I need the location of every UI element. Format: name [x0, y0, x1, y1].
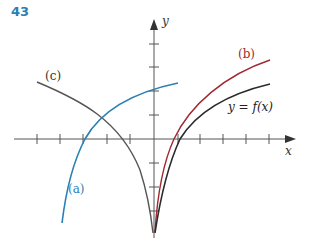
curve-a-label: (a): [68, 182, 85, 196]
curve-f-label: y = f(x): [227, 100, 273, 114]
x-axis-arrow-icon: [285, 135, 296, 143]
curve-c: [37, 82, 153, 233]
x-axis-label: x: [285, 144, 292, 158]
y-axis-arrow-icon: [150, 19, 158, 30]
graph: x y (c) (a) (b) y = f(x): [0, 0, 309, 241]
y-axis-label: y: [161, 14, 169, 28]
curve-c-label: (c): [45, 69, 61, 83]
x-axis: [14, 134, 296, 144]
curve-b-label: (b): [238, 47, 255, 61]
curve-b: [155, 60, 270, 232]
